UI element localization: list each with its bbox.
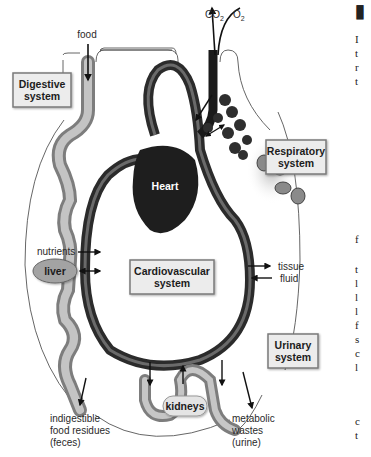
digestive-system-box: Digestive system [13,73,71,107]
urinary-system-box: Urinary system [268,334,318,368]
svg-text:Digestive: Digestive [19,78,66,90]
svg-text:system: system [278,157,314,169]
feces-label-1: indigestible [50,413,100,424]
lungs [200,50,252,160]
svg-text:Urinary: Urinary [275,339,312,351]
svg-text:Cardiovascular: Cardiovascular [134,265,210,277]
cardiovascular-system-box: Cardiovascular system [130,260,214,294]
nutrients-label: nutrients [37,246,75,257]
urine-label-3: (urine) [232,437,261,448]
urine-label-1: metabolic [232,413,275,424]
liver-label: liver [44,265,66,277]
kidneys-label: kidneys [165,400,204,412]
respiratory-system-box: Respiratory system [266,140,326,174]
feces-label-2: food residues [50,425,110,436]
svg-text:system: system [24,90,60,102]
page-text-fragment-mid: f [355,232,359,246]
svg-text:system: system [275,351,311,363]
feces-label-3: (feces) [50,437,81,448]
page-text-fragment-bottom: t l l l f s c l [355,262,360,374]
o2-label: O2 [233,9,245,22]
body-systems-diagram: Heart cells tissue fluid nutrients liver… [0,0,371,457]
tissue-fluid-label-2: fluid [280,273,298,284]
co2-label: CO2 [205,9,224,22]
svg-text:system: system [154,277,190,289]
page-text-fragment-top: I t r t [355,32,359,88]
tissue-fluid-label-1: tissue [278,261,305,272]
page-text-fragment-end: c t [355,414,360,442]
food-label: food [77,29,96,40]
heart-label: Heart [152,180,179,192]
svg-text:Respiratory: Respiratory [267,145,326,157]
page-heading-fragment: ▮ [355,4,365,18]
urine-label-2: wastes [231,425,263,436]
